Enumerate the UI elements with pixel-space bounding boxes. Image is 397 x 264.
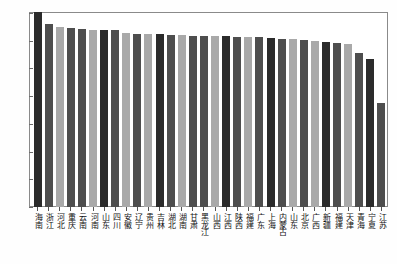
x-axis-category-label: 四川 [111, 213, 119, 228]
x-axis-label-slot: 宁夏 [365, 213, 376, 263]
x-axis-category-label: 青海 [355, 213, 363, 228]
x-axis-label-slot: 湖北 [165, 213, 176, 263]
x-axis-tick-mark [126, 207, 127, 211]
x-axis-label-slot: 重庆 [65, 213, 76, 263]
x-axis-tick [132, 207, 143, 212]
bar-slot [54, 13, 65, 207]
x-axis-tick [198, 207, 209, 212]
bar-slot [265, 13, 276, 207]
x-axis-tick [65, 207, 76, 212]
bar-slot [376, 13, 387, 207]
x-axis-tick-mark [148, 207, 149, 211]
x-axis-label-slot: 山西 [210, 213, 221, 263]
x-axis-label-slot: 河南 [87, 213, 98, 263]
x-axis-tick-mark [281, 207, 282, 211]
bar [344, 44, 352, 208]
x-axis-category-label: 上海 [267, 213, 275, 228]
x-axis-tick-mark [359, 207, 360, 211]
x-axis-tick-mark [370, 207, 371, 211]
bar-slot [43, 13, 54, 207]
bar-slot [243, 13, 254, 207]
x-axis-tick-mark [137, 207, 138, 211]
x-axis-label-slot: 山东 [287, 213, 298, 263]
x-axis-tick-mark [203, 207, 204, 211]
x-axis-tick-mark [115, 207, 116, 211]
x-axis-label-slot: 内蒙古 [276, 213, 287, 263]
x-axis-tick [187, 207, 198, 212]
bar [377, 103, 385, 207]
x-axis-label-slot: 安徽 [121, 213, 132, 263]
x-axis-tick-mark [226, 207, 227, 211]
bar-slot [165, 13, 176, 207]
x-axis-category-label: 广西 [311, 213, 319, 228]
bar [244, 37, 252, 207]
x-axis-category-label: 甘肃 [189, 213, 197, 228]
bar-slot [221, 13, 232, 207]
x-axis-category-label: 湖南 [178, 213, 186, 228]
bar [189, 36, 197, 207]
x-axis-tick [309, 207, 320, 212]
x-axis-category-label: 山东 [289, 213, 297, 228]
x-axis-label-slot: 云南 [76, 213, 87, 263]
bar [122, 33, 130, 207]
bar [322, 42, 330, 207]
bar [311, 41, 319, 207]
x-axis-category-label: 广东 [255, 213, 263, 228]
bar [255, 37, 263, 207]
x-axis-tick [176, 207, 187, 212]
x-axis-tick-mark [81, 207, 82, 211]
bar-slot [276, 13, 287, 207]
x-axis-label-slot: 四川 [110, 213, 121, 263]
x-axis-tick-mark [325, 207, 326, 211]
bar-slot [287, 13, 298, 207]
bar [300, 40, 308, 207]
x-axis-tick-mark [159, 207, 160, 211]
x-axis-tick-mark [381, 207, 382, 211]
x-axis-tick [87, 207, 98, 212]
x-axis-label-slot: 海南 [32, 213, 43, 263]
bar [333, 43, 341, 207]
x-axis-tick-mark [70, 207, 71, 211]
x-axis-tick [254, 207, 265, 212]
x-axis-tick [343, 207, 354, 212]
x-axis-tick-mark [303, 207, 304, 211]
x-axis-tick [165, 207, 176, 212]
x-axis-tick [320, 207, 331, 212]
x-axis-tick-mark [337, 207, 338, 211]
x-axis-category-label: 湖北 [167, 213, 175, 228]
x-axis-tick-mark [181, 207, 182, 211]
bar [355, 53, 363, 207]
bar-slot [76, 13, 87, 207]
x-axis-tick-mark [248, 207, 249, 211]
bar [278, 39, 286, 208]
x-axis-tick-mark [215, 207, 216, 211]
x-axis-tick-mark [314, 207, 315, 211]
x-axis-label-slot: 山东 [99, 213, 110, 263]
bar-slot [110, 13, 121, 207]
bar-slot [320, 13, 331, 207]
x-axis-tick [143, 207, 154, 212]
bar-slot [309, 13, 320, 207]
x-axis-label-slot: 江苏 [376, 213, 387, 263]
bar [366, 59, 374, 207]
bar-slot [343, 13, 354, 207]
bar-slot [298, 13, 309, 207]
bar [289, 39, 297, 207]
x-axis-tick-mark [259, 207, 260, 211]
x-axis-tick-mark [48, 207, 49, 211]
x-axis-category-label: 北京 [300, 213, 308, 228]
bar-slot [332, 13, 343, 207]
x-axis-tick [298, 207, 309, 212]
bar-slot [365, 13, 376, 207]
bar-slot [254, 13, 265, 207]
x-axis-label-slot: 辽宁 [132, 213, 143, 263]
bar-slot [132, 13, 143, 207]
bar [211, 36, 219, 207]
x-axis-label-slot: 青海 [354, 213, 365, 263]
x-axis-category-label: 江西 [222, 213, 230, 228]
x-axis-label-slot: 吉林 [154, 213, 165, 263]
bar-slot [99, 13, 110, 207]
x-axis-tick [32, 207, 43, 212]
x-axis-tick [265, 207, 276, 212]
x-axis-tick-mark [292, 207, 293, 211]
